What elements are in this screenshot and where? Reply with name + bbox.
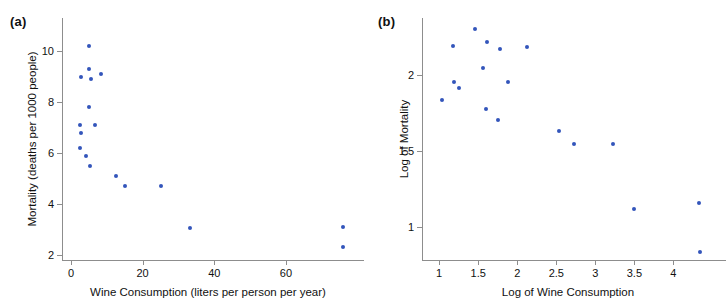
data-point bbox=[440, 98, 444, 102]
data-point bbox=[525, 45, 529, 49]
y-tick bbox=[417, 75, 422, 76]
data-point bbox=[188, 226, 192, 230]
wine-mortality-figure: (a) 2468100204060Wine Consumption (liter… bbox=[0, 0, 728, 306]
data-point bbox=[341, 245, 345, 249]
x-tick bbox=[71, 260, 72, 265]
data-point bbox=[572, 142, 576, 146]
x-tick bbox=[673, 260, 674, 265]
x-tick-label: 0 bbox=[68, 267, 74, 279]
y-tick bbox=[57, 102, 62, 103]
x-tick-label: 60 bbox=[280, 267, 292, 279]
y-tick bbox=[417, 227, 422, 228]
y-tick bbox=[57, 204, 62, 205]
x-axis-line bbox=[62, 260, 364, 261]
x-axis-title: Log of Wine Consumption bbox=[502, 286, 634, 298]
data-point bbox=[93, 123, 97, 127]
y-tick bbox=[57, 51, 62, 52]
data-point bbox=[496, 118, 500, 122]
data-point bbox=[557, 129, 561, 133]
x-tick-label: 2.5 bbox=[549, 267, 564, 279]
x-tick bbox=[595, 260, 596, 265]
data-point bbox=[506, 80, 510, 84]
x-axis-line bbox=[422, 260, 726, 261]
data-point bbox=[697, 201, 701, 205]
data-point bbox=[78, 146, 82, 150]
data-point bbox=[99, 72, 103, 76]
panel-b: (b) 11.5211.522.533.54Log of Wine Consum… bbox=[364, 0, 728, 306]
x-tick bbox=[478, 260, 479, 265]
x-tick-label: 40 bbox=[208, 267, 220, 279]
data-point bbox=[485, 40, 489, 44]
y-tick-label: 2 bbox=[386, 69, 414, 81]
data-point bbox=[632, 207, 636, 211]
x-tick bbox=[517, 260, 518, 265]
data-point bbox=[698, 250, 702, 254]
panel-a-label: (a) bbox=[10, 14, 27, 29]
data-point bbox=[341, 225, 345, 229]
y-axis-line bbox=[422, 18, 423, 260]
data-point bbox=[484, 107, 488, 111]
data-point bbox=[89, 77, 93, 81]
data-point bbox=[88, 164, 92, 168]
y-axis-title: Log of Mortality bbox=[398, 100, 410, 179]
data-point bbox=[79, 75, 83, 79]
data-point bbox=[498, 47, 502, 51]
x-tick-label: 3 bbox=[592, 267, 598, 279]
data-point bbox=[473, 27, 477, 31]
data-point bbox=[87, 44, 91, 48]
y-axis-title: Mortality (deaths per 1000 people) bbox=[26, 51, 38, 226]
data-point bbox=[159, 184, 163, 188]
x-tick-label: 2 bbox=[514, 267, 520, 279]
panel-b-label: (b) bbox=[378, 14, 395, 29]
data-point bbox=[84, 154, 88, 158]
x-axis-title: Wine Consumption (liters per person per … bbox=[90, 286, 326, 298]
y-tick-label: 2 bbox=[26, 249, 54, 261]
data-point bbox=[114, 174, 118, 178]
data-point bbox=[79, 131, 83, 135]
x-tick-label: 4 bbox=[670, 267, 676, 279]
x-tick bbox=[214, 260, 215, 265]
x-tick-label: 20 bbox=[136, 267, 148, 279]
data-point bbox=[78, 123, 82, 127]
data-point bbox=[481, 66, 485, 70]
x-tick bbox=[556, 260, 557, 265]
x-tick-label: 1 bbox=[436, 267, 442, 279]
x-tick-label: 3.5 bbox=[627, 267, 642, 279]
data-point bbox=[451, 44, 455, 48]
data-point bbox=[87, 105, 91, 109]
y-tick-label: 1 bbox=[386, 221, 414, 233]
data-point bbox=[611, 142, 615, 146]
data-point bbox=[123, 184, 127, 188]
data-point bbox=[457, 86, 461, 90]
panel-a: (a) 2468100204060Wine Consumption (liter… bbox=[0, 0, 364, 306]
y-tick bbox=[57, 255, 62, 256]
x-tick-label: 1.5 bbox=[471, 267, 486, 279]
x-tick bbox=[634, 260, 635, 265]
data-point bbox=[452, 80, 456, 84]
x-tick bbox=[143, 260, 144, 265]
data-point bbox=[87, 67, 91, 71]
y-tick bbox=[417, 151, 422, 152]
x-tick bbox=[439, 260, 440, 265]
x-tick bbox=[286, 260, 287, 265]
y-tick bbox=[57, 153, 62, 154]
y-axis-line bbox=[62, 18, 63, 260]
